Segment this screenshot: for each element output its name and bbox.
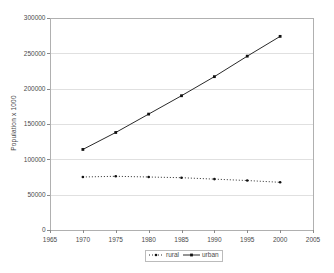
rural-marker [114, 175, 117, 178]
rural-marker [246, 179, 249, 182]
x-tick-label: 1975 [109, 236, 124, 243]
legend-label-rural: rural [166, 251, 180, 258]
y-tick-label: 250000 [24, 50, 46, 57]
urban-marker [279, 35, 282, 38]
y-tick-label: 100000 [24, 156, 46, 163]
population-line-chart: 0500001000001500002000002500003000001965… [0, 0, 334, 273]
x-tick-label: 1965 [43, 236, 58, 243]
urban-marker [114, 131, 117, 134]
y-tick-label: 300000 [24, 14, 46, 21]
urban-marker [180, 94, 183, 97]
urban-marker [246, 55, 249, 58]
x-tick-label: 1970 [76, 236, 91, 243]
rural-marker [82, 176, 85, 179]
rural-marker [180, 176, 183, 179]
y-tick-label: 0 [42, 226, 46, 233]
x-tick-label: 1980 [141, 236, 156, 243]
x-tick-label: 1990 [207, 236, 222, 243]
y-tick-label: 50000 [27, 191, 45, 198]
y-tick-label: 150000 [24, 120, 46, 127]
x-tick-label: 1995 [240, 236, 255, 243]
rural-marker [279, 181, 282, 184]
rural-marker [213, 178, 216, 181]
x-tick-label: 2000 [273, 236, 288, 243]
y-axis-title: Population x 1000 [10, 95, 17, 150]
urban-marker [213, 75, 216, 78]
rural-marker [147, 176, 150, 179]
legend-label-urban: urban [202, 251, 219, 258]
urban-marker [81, 148, 84, 151]
chart-canvas: 0500001000001500002000002500003000001965… [0, 0, 334, 273]
x-tick-label: 1985 [174, 236, 189, 243]
legend-urban-marker [190, 254, 193, 257]
legend-rural-marker [155, 254, 158, 257]
x-tick-label: 2005 [306, 236, 321, 243]
y-tick-label: 200000 [24, 85, 46, 92]
urban-marker [147, 113, 150, 116]
